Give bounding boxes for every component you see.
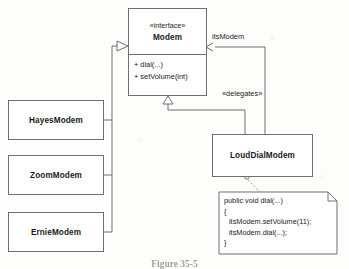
hayes-modem-label: HayesModem	[29, 116, 83, 125]
figure-caption: Figure 35-5	[0, 259, 349, 269]
class-box-loud-dial-modem[interactable]: LoudDialModem	[212, 134, 313, 177]
realization-arrowhead-bottom	[163, 96, 173, 104]
code-note[interactable]: public void dial(...) { itsModem.setVolu…	[219, 192, 337, 254]
loud-dial-modem-label: LoudDialModem	[230, 151, 295, 160]
modem-name: Modem	[153, 33, 182, 42]
association-arrowhead	[206, 43, 213, 51]
modem-header: «interface» Modem	[129, 9, 206, 54]
code-line-set-volume: itsModem.setVolume(11);	[224, 217, 311, 226]
class-box-hayes-modem[interactable]: HayesModem	[8, 100, 104, 140]
realization-arrowhead-left	[117, 41, 128, 51]
class-box-zoom-modem[interactable]: ZoomModem	[8, 155, 104, 195]
code-line-dial: itsModem.dial(...);	[224, 228, 311, 237]
class-box-modem[interactable]: «interface» Modem + dial(...) + setVolum…	[128, 8, 207, 96]
code-line-signature: public void dial(...)	[224, 196, 311, 205]
delegates-stereotype-label: «delegates»	[222, 89, 262, 98]
association-role-label: itsModem	[212, 32, 244, 41]
modem-operations: + dial(...) + setVolume(int)	[129, 54, 206, 81]
ernie-modem-label: ErnieModem	[31, 228, 81, 237]
modem-stereotype: «interface»	[150, 21, 186, 30]
zoom-modem-label: ZoomModem	[30, 171, 82, 180]
code-note-body: public void dial(...) { itsModem.setVolu…	[224, 196, 311, 247]
figure-canvas: «interface» Modem + dial(...) + setVolum…	[0, 0, 349, 269]
class-box-ernie-modem[interactable]: ErnieModem	[8, 212, 104, 252]
code-line-open-brace: {	[224, 207, 311, 216]
note-dashed-connector	[248, 180, 260, 192]
operation-set-volume: + setVolume(int)	[134, 72, 206, 81]
operation-dial: + dial(...)	[134, 60, 206, 69]
code-line-close-brace: }	[224, 238, 311, 247]
